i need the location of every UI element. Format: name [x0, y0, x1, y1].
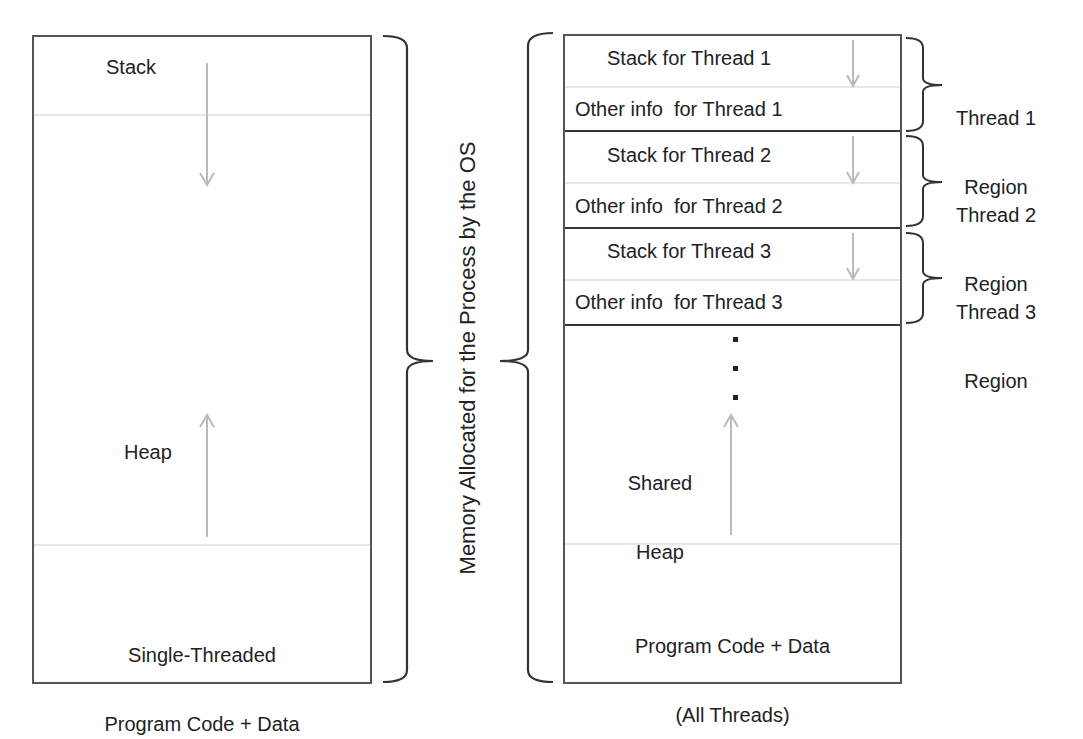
- single-threaded-memory-box: [33, 36, 371, 683]
- memory-allocated-title: Memory Allocated for the Process by the …: [455, 43, 481, 673]
- right-brace-icon: [500, 33, 553, 682]
- shared-heap-label: Shared Heap: [600, 426, 720, 587]
- left-brace-icon: [383, 36, 433, 682]
- thread3-region-label: Thread 3 Region: [940, 255, 1052, 416]
- heap-label: Heap: [124, 441, 172, 464]
- shared-heap-line1: Shared: [600, 472, 720, 495]
- thread2-other-label: Other info for Thread 2: [575, 195, 783, 218]
- thread3-region-line2: Region: [940, 370, 1052, 393]
- thread1-stack-label: Stack for Thread 1: [607, 47, 771, 70]
- thread1-region-brace-icon: [906, 38, 942, 131]
- thread1-other-label: Other info for Thread 1: [575, 98, 783, 121]
- code-label-line1: Single-Threaded: [34, 644, 370, 667]
- thread3-region-brace-icon: [906, 233, 942, 323]
- thread3-stack-label: Stack for Thread 3: [607, 240, 771, 263]
- thread3-other-label: Other info for Thread 3: [575, 291, 783, 314]
- thread3-region-line1: Thread 3: [940, 301, 1052, 324]
- single-threaded-code-label: Single-Threaded Program Code + Data: [34, 598, 370, 739]
- all-threads-code-line2: (All Threads): [565, 704, 900, 727]
- code-label-line2: Program Code + Data: [34, 713, 370, 736]
- shared-heap-line2: Heap: [600, 541, 720, 564]
- thread2-region-line1: Thread 2: [940, 204, 1052, 227]
- thread1-region-line1: Thread 1: [940, 107, 1052, 130]
- all-threads-code-label: Program Code + Data (All Threads): [565, 589, 900, 739]
- thread2-stack-label: Stack for Thread 2: [607, 144, 771, 167]
- thread2-region-brace-icon: [906, 136, 942, 226]
- all-threads-code-line1: Program Code + Data: [565, 635, 900, 658]
- stack-label: Stack: [106, 56, 156, 79]
